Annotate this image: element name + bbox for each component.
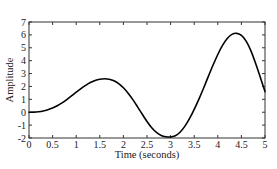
- y-tick-label: -1: [18, 120, 26, 131]
- plot-area: 00.511.522.533.544.55 -2-101234567: [18, 17, 268, 151]
- x-tick-label: 3.5: [188, 139, 201, 150]
- x-tick-label: 1.5: [94, 139, 107, 150]
- x-axis-label: Time (seconds): [115, 149, 180, 161]
- amplitude-line: [29, 33, 265, 137]
- line-chart: 00.511.522.533.544.55 -2-101234567 Time …: [0, 0, 277, 169]
- y-axis-ticks: -2-101234567: [18, 17, 265, 144]
- y-tick-label: 5: [21, 42, 26, 53]
- x-tick-label: 0.5: [46, 139, 59, 150]
- y-tick-label: 4: [21, 55, 26, 66]
- y-tick-label: 3: [21, 68, 26, 79]
- y-tick-label: 0: [21, 107, 26, 118]
- y-tick-label: 6: [21, 29, 26, 40]
- x-tick-label: 4.5: [235, 139, 248, 150]
- y-tick-label: 2: [21, 81, 26, 92]
- y-tick-label: -2: [18, 133, 26, 144]
- y-tick-label: 7: [21, 17, 26, 28]
- x-tick-label: 5: [263, 139, 268, 150]
- x-tick-label: 0: [27, 139, 32, 150]
- x-tick-label: 1: [74, 139, 79, 150]
- y-tick-label: 1: [21, 94, 26, 105]
- x-tick-label: 4: [215, 139, 220, 150]
- y-axis-label: Amplitude: [4, 57, 15, 102]
- x-axis-ticks: 00.511.522.533.544.55: [27, 22, 268, 150]
